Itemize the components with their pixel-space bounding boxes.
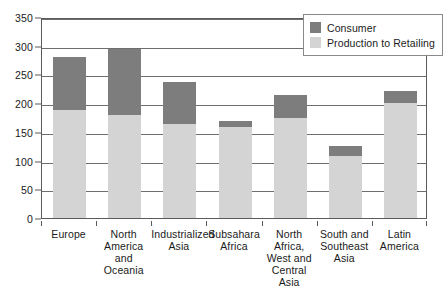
x-axis-tick-label: IndustrializedAsia — [151, 228, 206, 252]
x-axis-tick-label-line: West and — [262, 252, 317, 264]
bar-segment-production-to-retailing — [163, 124, 196, 218]
legend-swatch-icon — [310, 37, 321, 48]
x-axis-tick-mark — [372, 221, 373, 226]
x-axis-tick-label-line: South and — [317, 228, 372, 240]
bar-segment-consumer — [329, 146, 362, 156]
legend-swatch-icon — [310, 22, 321, 33]
bar-group — [53, 57, 86, 218]
bar-group — [108, 49, 141, 218]
legend-item-label: Production to Retailing — [327, 37, 435, 49]
x-axis-tick-label-line: Central Asia — [262, 264, 317, 288]
x-axis-tick-label: Europe — [41, 228, 96, 240]
bar-segment-consumer — [108, 49, 141, 115]
bar-segment-production-to-retailing — [108, 115, 141, 218]
y-axis-tick-label: 50 — [21, 184, 33, 196]
x-axis-tick-label-line: Latin — [372, 228, 427, 240]
x-axis-tick-label-line: Asia — [151, 240, 206, 252]
bar-segment-production-to-retailing — [274, 118, 307, 218]
gridline-200 — [42, 105, 426, 106]
x-axis: EuropeNorthAmerica andOceaniaIndustriali… — [41, 221, 427, 272]
y-axis: 350300250200150100500 — [0, 0, 41, 240]
x-axis-tick-mark — [426, 221, 427, 226]
bar-segment-consumer — [274, 95, 307, 118]
x-axis-tick-label-line: Asia — [317, 252, 372, 264]
x-axis-tick-label-line: North Africa, — [262, 228, 317, 252]
x-axis-tick-mark — [262, 221, 263, 226]
x-axis-tick-label: North Africa,West andCentral Asia — [262, 228, 317, 288]
bar-group — [163, 82, 196, 218]
y-axis-tick-label: 350 — [15, 12, 33, 24]
legend: ConsumerProduction to Retailing — [303, 14, 443, 56]
x-axis-tick-label-line: Europe — [41, 228, 96, 240]
bar-segment-production-to-retailing — [384, 103, 417, 218]
gridline-250 — [42, 76, 426, 77]
y-axis-tick-label: 250 — [15, 69, 33, 81]
bar-group — [274, 95, 307, 218]
bar-segment-consumer — [163, 82, 196, 124]
y-axis-tick-label: 150 — [15, 127, 33, 139]
x-axis-tick-label: LatinAmerica — [372, 228, 427, 252]
bar-segment-production-to-retailing — [53, 110, 86, 218]
x-axis-tick-label: NorthAmerica andOceania — [96, 228, 151, 276]
y-axis-tick-label: 200 — [15, 98, 33, 110]
x-axis-tick-label: South andSoutheastAsia — [317, 228, 372, 264]
legend-item-label: Consumer — [327, 22, 376, 34]
legend-item: Production to Retailing — [310, 35, 435, 50]
x-axis-tick-mark — [41, 221, 42, 226]
x-axis-tick-label-line: North — [96, 228, 151, 240]
x-axis-tick-label-line: Oceania — [96, 264, 151, 276]
x-axis-tick-label-line: Subsahara — [206, 228, 261, 240]
bar-group — [384, 91, 417, 218]
x-axis-tick-mark — [206, 221, 207, 226]
x-axis-tick-label-line: America — [372, 240, 427, 252]
bar-group — [219, 121, 252, 218]
x-axis-tick-label-line: Africa — [206, 240, 261, 252]
x-axis-tick-label-line: Industrialized — [151, 228, 206, 240]
x-axis-tick-mark — [317, 221, 318, 226]
y-axis-tick-label: 0 — [27, 213, 33, 225]
x-axis-tick-label-line: America and — [96, 240, 151, 264]
bar-segment-production-to-retailing — [219, 127, 252, 218]
bar-group — [329, 146, 362, 218]
y-axis-tick-label: 300 — [15, 41, 33, 53]
bar-segment-consumer — [53, 57, 86, 110]
x-axis-tick-mark — [151, 221, 152, 226]
y-axis-tick-label: 100 — [15, 156, 33, 168]
x-axis-tick-mark — [96, 221, 97, 226]
x-axis-tick-label-line: Southeast — [317, 240, 372, 252]
bar-segment-consumer — [384, 91, 417, 103]
legend-item: Consumer — [310, 20, 435, 35]
bar-segment-production-to-retailing — [329, 156, 362, 218]
x-axis-tick-label: SubsaharaAfrica — [206, 228, 261, 252]
